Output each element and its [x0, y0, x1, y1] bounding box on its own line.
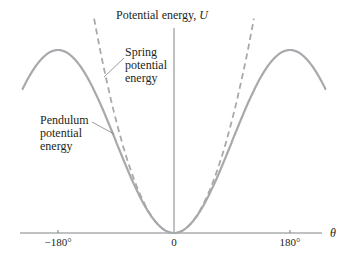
- spring-leader-line: [104, 58, 124, 77]
- tick-label-180: 180°: [280, 236, 301, 248]
- tick-label-neg180: −180°: [44, 236, 71, 248]
- y-axis-title: Potential energy, U: [116, 8, 209, 22]
- x-axis-variable: θ: [330, 226, 336, 240]
- spring-label: Spring potential energy: [125, 45, 170, 85]
- energy-diagram: Potential energy, U Spring potential ene…: [0, 0, 355, 261]
- tick-label-0: 0: [171, 236, 177, 248]
- pendulum-label: Pendulum potential energy: [40, 113, 92, 153]
